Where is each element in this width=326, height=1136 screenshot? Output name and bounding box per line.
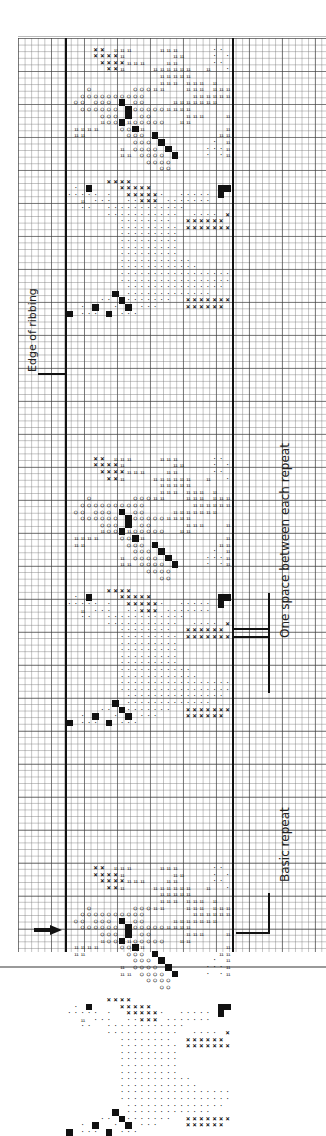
- chart-cell-o: [125, 132, 132, 139]
- chart-cell-h: [218, 86, 225, 93]
- chart-cell-fill: [119, 297, 126, 304]
- chart-cell-x: [92, 872, 99, 879]
- chart-cell-h: [119, 964, 126, 971]
- chart-cell-h: [172, 476, 179, 483]
- chart-cell-o: [152, 106, 159, 113]
- chart-cell-dot: [224, 872, 231, 879]
- chart-cell-h: [132, 469, 139, 476]
- chart-cell-dot: [92, 1129, 99, 1136]
- chart-cell-o: [152, 159, 159, 166]
- chart-cell-dot: [178, 700, 185, 707]
- chart-cell-h: [211, 93, 218, 100]
- chart-cell-o: [112, 938, 119, 945]
- chart-cell-o: [158, 119, 165, 126]
- chart-cell-o: [79, 106, 86, 113]
- chart-cell-dot: [211, 878, 218, 885]
- chart-cell-h: [125, 561, 132, 568]
- chart-cell-dot: [99, 707, 106, 714]
- chart-cell-fill: [152, 951, 159, 958]
- chart-cell-x: [198, 1043, 205, 1050]
- chart-cell-h: [178, 515, 185, 522]
- chart-cell-h: [198, 931, 205, 938]
- chart-cell-dot: [132, 720, 139, 727]
- chart-cell-h: [224, 548, 231, 555]
- chart-cell-h: [178, 918, 185, 925]
- chart-cell-dot: [92, 311, 99, 318]
- chart-cell-o: [132, 528, 139, 535]
- chart-cell-dot: [79, 1023, 86, 1030]
- chart-cell-h: [191, 93, 198, 100]
- chart-cell-h: [198, 509, 205, 516]
- chart-cell-o: [145, 119, 152, 126]
- chart-cell-dot: [119, 720, 126, 727]
- chart-cell-x: [185, 304, 192, 311]
- chart-cell-h: [165, 489, 172, 496]
- chart-cell-h: [172, 885, 179, 892]
- chart-cell-dot: [106, 297, 113, 304]
- basic-repeat-bracket-vertical: [268, 893, 270, 933]
- chart-cell-dot: [211, 1103, 218, 1110]
- chart-cell-h: [165, 924, 172, 931]
- chart-cell-h: [218, 911, 225, 918]
- chart-cell-dot: [139, 304, 146, 311]
- chart-cell-h: [198, 502, 205, 509]
- chart-cell-h: [119, 561, 126, 568]
- chart-cell-h: [125, 469, 132, 476]
- chart-cell-fill: [125, 522, 132, 529]
- chart-cell-dot: [132, 1116, 139, 1123]
- chart-cell-o: [79, 515, 86, 522]
- chart-cell-x: [112, 179, 119, 186]
- chart-cell-h: [198, 522, 205, 529]
- chart-cell-h: [211, 918, 218, 925]
- chart-cell-h: [119, 146, 126, 153]
- chart-cell-x: [218, 304, 225, 311]
- chart-cell-h: [185, 509, 192, 516]
- chart-cell-dot: [86, 720, 93, 727]
- chart-cell-h: [224, 971, 231, 978]
- chart-cell-h: [119, 152, 126, 159]
- chart-cell-h: [218, 542, 225, 549]
- chart-cell-h: [224, 146, 231, 153]
- chart-cell-o: [145, 905, 152, 912]
- chart-cell-h: [165, 515, 172, 522]
- chart-cell-dot: [119, 1096, 126, 1103]
- chart-cell-h: [211, 905, 218, 912]
- chart-cell-h: [172, 99, 179, 106]
- chart-cell-fill: [158, 957, 165, 964]
- chart-cell-h: [165, 885, 172, 892]
- chart-cell-h: [92, 944, 99, 951]
- chart-cell-h: [99, 528, 106, 535]
- chart-cell-h: [224, 911, 231, 918]
- chart-cell-x: [112, 588, 119, 595]
- chart-cell-h: [185, 931, 192, 938]
- chart-cell-h: [178, 938, 185, 945]
- chart-cell-o: [158, 515, 165, 522]
- chart-cell-h: [172, 456, 179, 463]
- chart-cell-x: [205, 634, 212, 641]
- chart-cell-h: [73, 944, 80, 951]
- chart-cell-o: [92, 106, 99, 113]
- page-bottom-rule: [0, 966, 326, 968]
- chart-cell-h: [172, 878, 179, 885]
- chart-cell-h: [172, 73, 179, 80]
- chart-cell-dot: [158, 1010, 165, 1017]
- chart-cell-h: [172, 47, 179, 54]
- chart-cell-h: [158, 489, 165, 496]
- chart-cell-x: [92, 53, 99, 60]
- chart-cell-h: [185, 86, 192, 93]
- chart-cell-dot: [224, 476, 231, 483]
- chart-cell-dot: [79, 720, 86, 727]
- chart-cell-x: [224, 225, 231, 232]
- chart-cell-fill: [125, 931, 132, 938]
- chart-cell-o: [119, 944, 126, 951]
- chart-cell-h: [198, 99, 205, 106]
- chart-cell-h: [165, 898, 172, 905]
- chart-cell-o: [132, 146, 139, 153]
- chart-cell-fill: [224, 1004, 231, 1011]
- chart-cell-h: [165, 878, 172, 885]
- chart-cell-o: [86, 924, 93, 931]
- chart-cell-x: [198, 713, 205, 720]
- chart-cell-dot: [191, 198, 198, 205]
- chart-cell-h: [198, 495, 205, 502]
- chart-cell-x: [119, 60, 126, 67]
